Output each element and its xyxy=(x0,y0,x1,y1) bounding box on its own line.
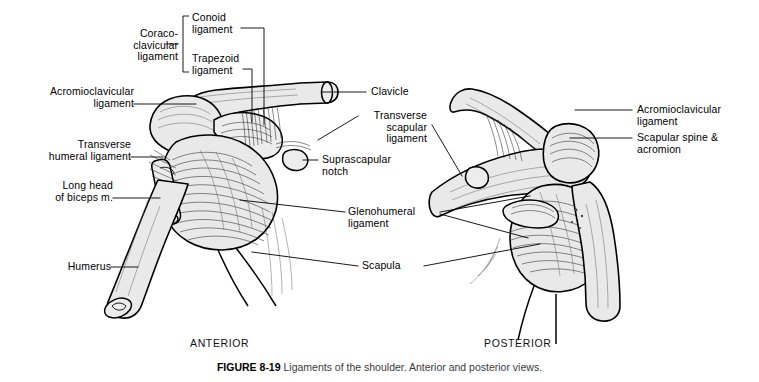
humerus-shaft-anterior xyxy=(102,180,188,322)
label-acromioclavicular-ligament-anterior: Acromioclavicular ligament xyxy=(24,86,134,109)
label-glenohumeral-ligament: Glenohumeral ligament xyxy=(348,206,438,229)
label-conoid-ligament: Conoid ligament xyxy=(192,12,252,35)
suprascapular-notch-posterior xyxy=(465,167,488,188)
label-coraco-clavicular: Coraco- clavicular ligament xyxy=(78,28,178,63)
leader-scapula-left xyxy=(252,252,358,266)
leader-transverse-scapular-a xyxy=(318,116,358,140)
label-transverse-scapular-ligament: Transverse scapular ligament xyxy=(355,110,427,145)
label-suprascapular-notch: Suprascapular notch xyxy=(322,154,412,177)
anterior-view-drawing xyxy=(102,82,338,322)
label-transverse-humeral-ligament: Transverse humeral ligament xyxy=(21,139,131,162)
figure-caption-text: Ligaments of the shoulder. Anterior and … xyxy=(281,361,542,373)
label-humerus: Humerus xyxy=(51,261,111,273)
label-long-head-of-biceps: Long head of biceps m. xyxy=(23,180,113,203)
label-scapula: Scapula xyxy=(362,260,422,272)
posterior-view-drawing xyxy=(429,89,620,344)
figure-caption: FIGURE 8-19 Ligaments of the shoulder. A… xyxy=(0,361,759,373)
label-clavicle: Clavicle xyxy=(371,86,441,98)
coracoclavicular-bracket xyxy=(183,16,189,72)
view-label-posterior: POSTERIOR xyxy=(484,337,552,349)
label-trapezoid-ligament: Trapezoid ligament xyxy=(192,53,254,76)
label-acromioclavicular-ligament-posterior: Acromioclavicular ligament xyxy=(637,104,752,127)
figure-container: Coraco- clavicular ligament Conoid ligam… xyxy=(0,0,759,382)
leader-transverse-scapular-b xyxy=(432,125,462,176)
acromion-posterior xyxy=(543,124,598,183)
label-scapular-spine-acromion: Scapular spine & acromion xyxy=(637,132,752,155)
figure-number: FIGURE 8-19 xyxy=(217,361,281,373)
view-label-anterior: ANTERIOR xyxy=(190,337,249,349)
